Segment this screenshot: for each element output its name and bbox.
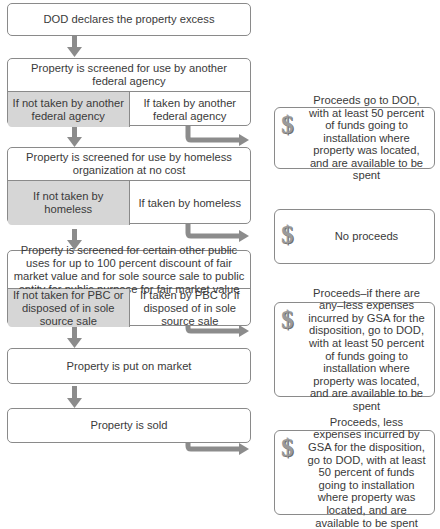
step-label: Property is put on market (67, 360, 192, 373)
dollar-icon: $ (281, 112, 294, 138)
dollar-icon: $ (281, 307, 294, 333)
outcome-homeless: $ No proceeds (274, 209, 435, 264)
outcome-text: Proceeds, less expenses incurred by GSA … (275, 416, 434, 529)
down-arrow (67, 36, 82, 57)
outcome-text: Proceeds go to DOD, with at least 50 per… (275, 94, 434, 182)
dollar-icon: $ (281, 435, 294, 461)
outcome-federal-agency: $ Proceeds go to DOD, with at least 50 p… (274, 107, 435, 169)
side-arrow-head (239, 134, 249, 146)
branch-not-taken: If not taken for PBC or disposed of in s… (8, 289, 130, 327)
branch-taken: If taken by another federal agency (130, 92, 251, 127)
branch-taken: If taken by homeless (130, 181, 251, 225)
side-arrow (188, 224, 240, 236)
branch-not-taken: If not taken by homeless (8, 181, 130, 225)
down-arrow (67, 126, 82, 147)
branch-taken: If taken by PBC or if disposed of in sol… (130, 289, 251, 327)
side-arrow-head (239, 443, 249, 455)
step-federal-agency-screening: Property is screened for use by another … (7, 58, 251, 126)
step-label: Property is sold (90, 419, 167, 432)
side-arrow (188, 126, 240, 140)
step-title: Property is screened for certain other p… (8, 251, 250, 288)
step-property-sold: Property is sold (7, 408, 251, 443)
side-arrow-head (239, 230, 249, 242)
outcome-text: Proceeds–if there are any–less expenses … (275, 287, 434, 413)
step-title: Property is screened for use by another … (8, 59, 250, 91)
outcome-text: No proceeds (275, 230, 434, 243)
step-put-on-market: Property is put on market (7, 348, 251, 384)
step-dod-declares-excess: DOD declares the property excess (7, 3, 251, 36)
branch-not-taken: If not taken by another federal agency (8, 92, 130, 127)
step-label: DOD declares the property excess (44, 13, 215, 26)
step-title: Property is screened for use by homeless… (8, 148, 250, 180)
step-public-uses-screening: Property is screened for certain other p… (7, 250, 251, 326)
step-homeless-screening: Property is screened for use by homeless… (7, 147, 251, 224)
outcome-pbc-sole-source: $ Proceeds–if there are any–less expense… (274, 302, 435, 397)
dollar-icon: $ (281, 222, 294, 248)
down-arrow (67, 326, 82, 348)
outcome-property-sold: $ Proceeds, less expenses incurred by GS… (274, 430, 435, 515)
down-arrow (67, 386, 82, 408)
